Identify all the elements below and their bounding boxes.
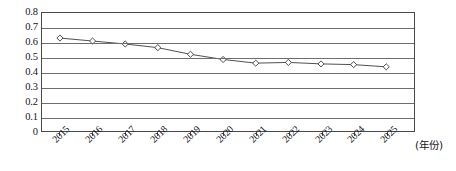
x-axis-tick-label: 2018 [148,123,169,144]
x-axis-tick-label: 2022 [280,123,301,144]
x-axis-tick-labels: 2015201620172018201920202021202220232024… [0,0,456,171]
x-axis-tick-label: 2025 [378,123,399,144]
x-axis-tick-label: 2023 [313,123,334,144]
x-axis-tick-label: 2019 [181,123,202,144]
line-chart: 0.80.70.60.50.40.30.20.10 20152016201720… [0,0,456,171]
x-axis-tick-label: 2017 [116,123,137,144]
x-axis-unit-label: (年份) [415,139,443,151]
x-axis-tick-label: 2016 [83,123,104,144]
x-axis-tick-label: 2021 [247,123,268,144]
x-axis-tick-label: 2024 [345,123,366,144]
x-axis-tick-label: 2015 [50,123,71,144]
x-axis-tick-label: 2020 [214,123,235,144]
